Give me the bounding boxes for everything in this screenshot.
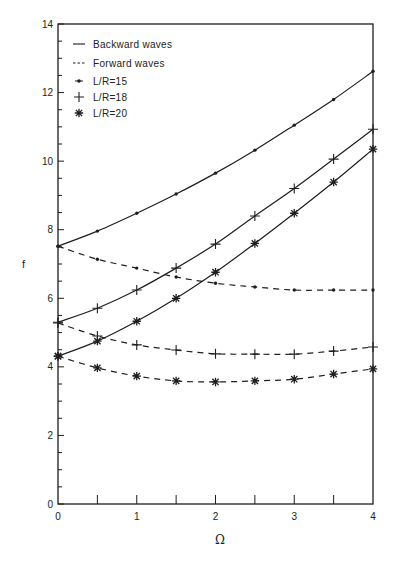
y-tick-label: 6 bbox=[47, 293, 53, 304]
legend-label: Forward waves bbox=[93, 58, 165, 69]
x-tick-label: 0 bbox=[55, 511, 61, 522]
legend-item: Backward waves bbox=[73, 39, 172, 50]
plus-marker bbox=[289, 349, 299, 359]
y-tick-label: 8 bbox=[47, 224, 53, 235]
series-line bbox=[58, 149, 373, 356]
dot-marker bbox=[253, 148, 256, 151]
dot-marker bbox=[332, 98, 335, 101]
plus-marker bbox=[53, 318, 63, 328]
y-tick-label: 0 bbox=[47, 499, 53, 510]
plus-marker bbox=[211, 239, 221, 249]
asterisk-marker bbox=[133, 372, 141, 380]
dot-marker bbox=[371, 288, 374, 291]
series-l-r-18-backward-waves bbox=[53, 124, 378, 327]
x-tick-label: 3 bbox=[291, 511, 297, 522]
plus-marker bbox=[329, 346, 339, 356]
asterisk-marker bbox=[54, 352, 62, 360]
legend-item: L/R=18 bbox=[74, 92, 127, 103]
dot-marker bbox=[96, 229, 99, 232]
x-tick-label: 1 bbox=[134, 511, 140, 522]
dot-marker bbox=[214, 171, 217, 174]
asterisk-marker bbox=[329, 178, 337, 186]
x-axis-label: Ω bbox=[215, 533, 225, 547]
plus-marker bbox=[250, 211, 260, 221]
dot-marker bbox=[253, 285, 256, 288]
legend-label: L/R=15 bbox=[93, 76, 127, 87]
plus-marker bbox=[74, 92, 84, 102]
plus-marker bbox=[171, 345, 181, 355]
dot-marker bbox=[174, 275, 177, 278]
dot-marker bbox=[96, 258, 99, 261]
legend-item: L/R=15 bbox=[75, 76, 127, 87]
dot-marker bbox=[293, 288, 296, 291]
legend-item: Forward waves bbox=[73, 58, 165, 69]
legend-label: L/R=18 bbox=[93, 92, 127, 103]
asterisk-marker bbox=[290, 375, 298, 383]
plus-marker bbox=[171, 263, 181, 273]
asterisk-marker bbox=[369, 145, 377, 153]
x-axis-ticks: 01234 bbox=[55, 495, 376, 522]
plus-marker bbox=[329, 154, 339, 164]
asterisk-marker bbox=[93, 364, 101, 372]
asterisk-marker bbox=[329, 370, 337, 378]
legend-item: L/R=20 bbox=[75, 108, 128, 119]
plus-marker bbox=[289, 184, 299, 194]
legend-label: Backward waves bbox=[93, 39, 172, 50]
asterisk-marker bbox=[133, 317, 141, 325]
chart-canvas: 02468101214 01234 Backward wavesForward … bbox=[0, 0, 398, 563]
asterisk-marker bbox=[211, 268, 219, 276]
dot-marker bbox=[135, 266, 138, 269]
asterisk-marker bbox=[211, 378, 219, 386]
dot-marker bbox=[332, 288, 335, 291]
y-tick-label: 12 bbox=[42, 87, 54, 98]
dot-marker bbox=[135, 212, 138, 215]
plus-marker bbox=[250, 349, 260, 359]
y-tick-label: 10 bbox=[42, 156, 54, 167]
asterisk-marker bbox=[172, 377, 180, 385]
x-tick-label: 2 bbox=[213, 511, 219, 522]
plus-marker bbox=[211, 349, 221, 359]
legend: Backward wavesForward wavesL/R=15L/R=18L… bbox=[73, 39, 172, 119]
dot-marker bbox=[371, 70, 374, 73]
series-l-r-20-backward-waves bbox=[54, 145, 377, 360]
y-tick-label: 14 bbox=[42, 19, 54, 30]
y-tick-label: 4 bbox=[47, 361, 53, 372]
dot-marker bbox=[214, 282, 217, 285]
asterisk-marker bbox=[251, 239, 259, 247]
legend-label: L/R=20 bbox=[93, 108, 127, 119]
asterisk-marker bbox=[75, 109, 83, 117]
plus-marker bbox=[368, 124, 378, 134]
dot-marker bbox=[174, 192, 177, 195]
dot-marker bbox=[293, 123, 296, 126]
series-line bbox=[58, 129, 373, 322]
asterisk-marker bbox=[251, 377, 259, 385]
y-tick-label: 2 bbox=[47, 430, 53, 441]
y-axis-ticks: 02468101214 bbox=[42, 19, 64, 510]
x-tick-label: 4 bbox=[370, 511, 376, 522]
dot-marker bbox=[56, 244, 59, 247]
legend-dot-icon bbox=[77, 79, 81, 83]
plus-marker bbox=[132, 285, 142, 295]
asterisk-marker bbox=[172, 294, 180, 302]
plus-marker bbox=[368, 342, 378, 352]
asterisk-marker bbox=[369, 365, 377, 373]
plus-marker bbox=[132, 340, 142, 350]
y-axis-label: f bbox=[22, 258, 26, 270]
plus-marker bbox=[92, 303, 102, 313]
asterisk-marker bbox=[290, 209, 298, 217]
asterisk-marker bbox=[93, 337, 101, 345]
